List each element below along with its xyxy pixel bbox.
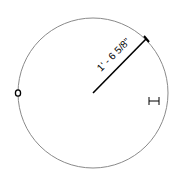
radius-dimension-label[interactable]: 1' - 6 5/8" [95, 36, 133, 74]
i-beam-dimension-icon[interactable] [149, 97, 159, 105]
circle-grip-icon[interactable] [15, 90, 20, 96]
drawing-canvas: 1' - 6 5/8" [0, 0, 181, 180]
